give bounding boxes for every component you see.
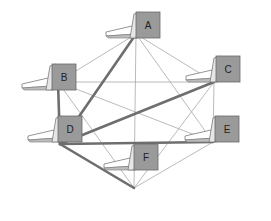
network-mesh-diagram: ABCDEF	[0, 0, 271, 221]
node-c: C	[186, 56, 240, 82]
node-label: E	[224, 124, 231, 135]
node-d: D	[28, 116, 82, 142]
node-a: A	[106, 12, 160, 38]
laptop-computer-icon	[106, 12, 160, 38]
node-e: E	[185, 116, 239, 142]
node-label: A	[145, 20, 152, 31]
node-label: C	[224, 64, 231, 75]
node-label: B	[61, 72, 68, 83]
node-label: F	[143, 152, 149, 163]
node-label: D	[66, 124, 73, 135]
node-b: B	[22, 64, 76, 90]
laptop-computer-icon	[28, 116, 82, 142]
laptop-computer-icon	[186, 56, 240, 82]
laptop-computer-icon	[185, 116, 239, 142]
laptop-computer-icon	[22, 64, 76, 90]
